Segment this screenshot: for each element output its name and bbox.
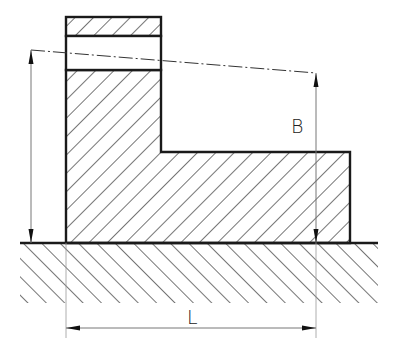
top-cap bbox=[66, 17, 161, 36]
workpiece bbox=[66, 17, 350, 243]
ground-hatch bbox=[20, 244, 378, 303]
technical-drawing: B L bbox=[0, 0, 400, 355]
ground bbox=[20, 243, 378, 303]
clear-band bbox=[66, 36, 161, 70]
label-l: L bbox=[187, 306, 198, 328]
workpiece-body bbox=[66, 70, 350, 243]
label-b: B bbox=[291, 115, 303, 137]
